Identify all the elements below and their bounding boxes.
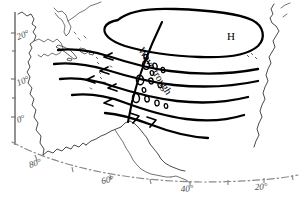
coastline-central-america bbox=[43, 143, 86, 155]
longitude-label-60: 60° bbox=[100, 173, 115, 185]
coastline-africa-bulge-detail bbox=[281, 3, 290, 17]
longitude-axis-line bbox=[12, 142, 298, 182]
chart-canvas: 20° 10° 0° 80° 60° 40° 20° bbox=[0, 0, 302, 203]
cloud-symbol-13 bbox=[164, 103, 168, 108]
streamline-anticyclone-loop bbox=[104, 9, 262, 57]
longitude-label-20: 20° bbox=[254, 181, 268, 192]
coastlines-layer bbox=[18, 2, 290, 183]
streamline-chart-figure: 20° 10° 0° 80° 60° 40° 20° bbox=[0, 0, 302, 203]
high-pressure-center: H bbox=[227, 30, 235, 42]
longitude-tick-70 bbox=[72, 167, 73, 172]
latitude-axis: 20° 10° 0° bbox=[11, 12, 31, 145]
coastline-us-southeast bbox=[68, 2, 101, 21]
flow-arrow-5 bbox=[104, 99, 113, 106]
coastline-inland-detail bbox=[115, 130, 171, 177]
longitude-label-40: 40° bbox=[180, 183, 194, 194]
latitude-label-20: 20° bbox=[15, 28, 31, 42]
cloud-symbol-12 bbox=[142, 87, 146, 92]
coastline-florida bbox=[54, 8, 71, 36]
streamline-5 bbox=[105, 113, 208, 138]
longitude-label-80: 80° bbox=[28, 156, 43, 170]
cloud-symbol-11 bbox=[155, 100, 160, 106]
latitude-label-0: 0° bbox=[15, 113, 26, 125]
latitude-label-10: 10° bbox=[15, 74, 31, 88]
island-jamaica bbox=[67, 58, 72, 61]
islands-cape-verde bbox=[247, 53, 257, 59]
high-pressure-label: H bbox=[227, 30, 235, 42]
island-cuba bbox=[56, 45, 77, 59]
